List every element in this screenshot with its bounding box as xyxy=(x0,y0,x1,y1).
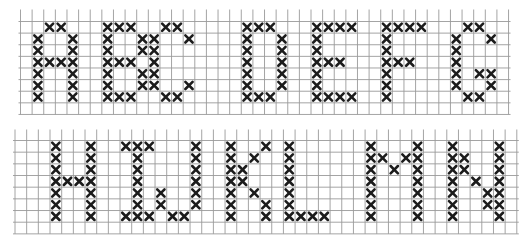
cross-stitch xyxy=(192,189,199,196)
cross-stitch xyxy=(162,24,169,31)
cross-stitch xyxy=(227,143,234,150)
cross-stitch xyxy=(185,82,192,89)
cross-stitch xyxy=(52,166,59,173)
cross-stitch xyxy=(192,154,199,161)
cross-stitch xyxy=(139,35,146,42)
cross-stitch xyxy=(87,201,94,208)
cross-stitch xyxy=(192,178,199,185)
cross-stitch xyxy=(464,24,471,31)
cross-stitch xyxy=(243,24,250,31)
cross-stitch xyxy=(174,24,181,31)
cross-stitch xyxy=(476,93,483,100)
cross-stitch xyxy=(87,166,94,173)
cross-stitch xyxy=(243,70,250,77)
cross-stitch xyxy=(297,213,304,220)
cross-stitch xyxy=(34,47,41,54)
cross-stitch xyxy=(104,24,111,31)
cross-stitch xyxy=(34,35,41,42)
cross-stitch xyxy=(367,143,374,150)
cross-stitch xyxy=(104,47,111,54)
cross-stitch xyxy=(151,70,158,77)
cross-stitch xyxy=(414,143,421,150)
cross-stitch xyxy=(286,189,293,196)
cross-stitch xyxy=(69,93,76,100)
cross-stitch xyxy=(251,154,258,161)
cross-stitch xyxy=(278,70,285,77)
cross-stitch xyxy=(69,70,76,77)
cross-stitch xyxy=(134,178,141,185)
cross-stitch xyxy=(52,154,59,161)
cross-stitch xyxy=(286,166,293,173)
cross-stitch xyxy=(52,213,59,220)
cross-stitch xyxy=(151,35,158,42)
cross-stitch xyxy=(309,213,316,220)
cross-stitch xyxy=(325,93,332,100)
cross-stitch xyxy=(127,93,134,100)
cross-stitch xyxy=(181,213,188,220)
cross-stitch xyxy=(262,143,269,150)
cross-stitch xyxy=(453,82,460,89)
cross-stitch xyxy=(449,201,456,208)
cross-stitch xyxy=(104,93,111,100)
cross-stitch xyxy=(52,143,59,150)
cross-stitch xyxy=(278,82,285,89)
cross-stitch xyxy=(243,93,250,100)
cross-stitch xyxy=(134,213,141,220)
cross-stitch xyxy=(449,189,456,196)
cross-stitch xyxy=(239,178,246,185)
cross-stitch-chart xyxy=(0,0,528,248)
cross-stitch xyxy=(227,189,234,196)
cross-stitch xyxy=(127,59,134,66)
cross-stitch xyxy=(87,189,94,196)
cross-stitch xyxy=(34,82,41,89)
cross-stitch xyxy=(69,47,76,54)
cross-stitch xyxy=(367,213,374,220)
cross-stitch xyxy=(69,82,76,89)
cross-stitch xyxy=(476,24,483,31)
cross-stitch xyxy=(383,82,390,89)
cross-stitch xyxy=(151,59,158,66)
cross-stitch xyxy=(34,70,41,77)
cross-stitch xyxy=(488,70,495,77)
cross-stitch xyxy=(286,213,293,220)
cross-stitch xyxy=(34,93,41,100)
cross-stitch xyxy=(367,166,374,173)
cross-stitch xyxy=(162,93,169,100)
cross-stitch xyxy=(134,143,141,150)
cross-stitch xyxy=(367,154,374,161)
cross-stitch xyxy=(104,59,111,66)
cross-stitch xyxy=(472,178,479,185)
cross-stitch xyxy=(313,70,320,77)
cross-stitch xyxy=(313,93,320,100)
cross-stitch xyxy=(134,189,141,196)
cross-stitch xyxy=(496,213,503,220)
cross-stitch xyxy=(134,154,141,161)
cross-stitch xyxy=(243,82,250,89)
cross-stitch xyxy=(449,143,456,150)
cross-stitch xyxy=(383,70,390,77)
cross-stitch xyxy=(255,24,262,31)
cross-stitch xyxy=(192,143,199,150)
cross-stitch xyxy=(46,24,53,31)
cross-stitch xyxy=(336,59,343,66)
cross-stitch xyxy=(34,59,41,66)
cross-stitch xyxy=(453,59,460,66)
cross-stitch xyxy=(87,154,94,161)
cross-stitch xyxy=(461,154,468,161)
cross-stitch xyxy=(313,24,320,31)
cross-stitch xyxy=(414,213,421,220)
cross-stitch xyxy=(383,35,390,42)
cross-stitch xyxy=(414,154,421,161)
cross-stitch xyxy=(488,82,495,89)
cross-stitch xyxy=(449,166,456,173)
cross-stitch xyxy=(122,213,129,220)
cross-stitch xyxy=(251,189,258,196)
cross-stitch xyxy=(383,24,390,31)
cross-stitch xyxy=(383,59,390,66)
cross-stitch xyxy=(227,201,234,208)
cross-stitch xyxy=(496,189,503,196)
cross-stitch xyxy=(476,70,483,77)
cross-stitch xyxy=(406,59,413,66)
cross-stitch xyxy=(255,93,262,100)
cross-stitch xyxy=(139,82,146,89)
